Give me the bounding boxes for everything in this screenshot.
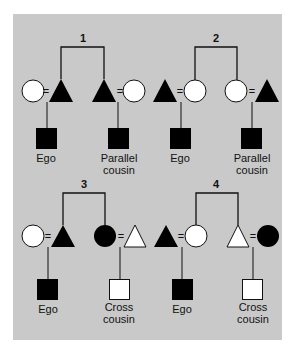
female-empty-icon — [22, 225, 44, 247]
diagram-number: 3 — [81, 178, 87, 190]
marriage-sign: = — [118, 230, 124, 242]
marriage-sign: = — [45, 230, 51, 242]
kinship-diagram: 1 = = Ego Parallel cousin 2 = = Ego Para… — [0, 0, 296, 356]
cousin-label-line1: Parallel — [101, 152, 138, 164]
female-empty-icon — [184, 80, 206, 102]
male-filled-icon — [154, 225, 178, 247]
ego-male-filled-icon — [170, 128, 191, 149]
kinship-diagram-1: 1 = = Ego Parallel cousin — [22, 32, 145, 176]
marriage-sign: = — [178, 230, 184, 242]
sibling-bracket — [61, 47, 104, 79]
diagram-number: 2 — [213, 32, 219, 44]
male-filled-icon — [92, 79, 116, 102]
ego-label: Ego — [170, 152, 190, 164]
cousin-label-line1: Cross — [239, 301, 268, 313]
ego-male-filled-icon — [36, 128, 57, 149]
kinship-diagram-2: 2 = = Ego Parallel cousin — [153, 32, 279, 176]
female-filled-icon — [94, 225, 116, 247]
ego-label: Ego — [172, 303, 192, 315]
diagram-number: 4 — [213, 178, 220, 190]
female-empty-icon — [123, 80, 145, 102]
cousin-male-filled-icon — [108, 128, 129, 149]
female-empty-icon — [225, 80, 247, 102]
female-filled-icon — [257, 225, 279, 247]
marriage-sign: = — [117, 85, 123, 97]
male-filled-icon — [255, 79, 279, 102]
cousin-label-line1: Parallel — [234, 152, 271, 164]
male-filled-icon — [153, 79, 177, 102]
cousin-label-line1: Cross — [105, 301, 134, 313]
kinship-diagram-4: 4 = = Ego Cross cousin — [154, 178, 279, 325]
cousin-male-empty-icon — [110, 280, 130, 300]
ego-label: Ego — [36, 152, 56, 164]
marriage-sign: = — [250, 230, 256, 242]
ego-male-filled-icon — [37, 279, 58, 300]
kinship-diagram-3: 3 = = Ego Cross cousin — [22, 178, 146, 325]
female-empty-icon — [22, 80, 44, 102]
male-filled-icon — [49, 79, 73, 102]
cousin-male-empty-icon — [243, 280, 263, 300]
cousin-label-line2: cousin — [237, 313, 269, 325]
male-filled-icon — [51, 225, 75, 247]
sibling-bracket — [63, 193, 105, 225]
cousin-label-line2: cousin — [103, 313, 135, 325]
marriage-sign: = — [249, 85, 255, 97]
male-empty-icon — [227, 225, 249, 247]
sibling-bracket — [195, 47, 237, 80]
ego-male-filled-icon — [172, 279, 193, 300]
ego-label: Ego — [38, 303, 58, 315]
cousin-label-line2: cousin — [103, 164, 135, 176]
cousin-male-filled-icon — [241, 128, 262, 149]
marriage-sign: = — [177, 85, 183, 97]
marriage-sign: = — [43, 85, 49, 97]
female-empty-icon — [185, 225, 207, 247]
diagram-number: 1 — [80, 32, 86, 44]
sibling-bracket — [196, 193, 238, 225]
male-empty-icon — [124, 225, 146, 247]
cousin-label-line2: cousin — [236, 164, 268, 176]
